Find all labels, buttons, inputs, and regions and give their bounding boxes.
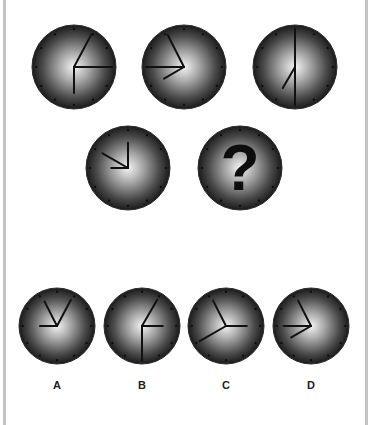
tick-mark — [164, 33, 166, 35]
sequence-clocks — [32, 25, 337, 210]
tick-mark — [165, 167, 167, 169]
tick-mark — [327, 295, 329, 297]
option-d-clock[interactable] — [273, 288, 349, 364]
tick-mark — [175, 325, 177, 327]
tick-mark — [26, 342, 28, 344]
tick-mark — [206, 148, 208, 150]
tick-mark — [124, 295, 126, 297]
tick-mark — [73, 295, 75, 297]
tick-mark — [202, 33, 204, 35]
option-label-d[interactable]: D — [301, 379, 321, 391]
clock-3 — [253, 25, 337, 109]
tick-mark — [202, 99, 204, 101]
tick-mark — [191, 325, 193, 327]
tick-mark — [277, 167, 279, 169]
tick-mark — [86, 308, 88, 310]
tick-mark — [272, 148, 274, 150]
tick-mark — [310, 359, 312, 361]
tick-mark — [94, 148, 96, 150]
tick-mark — [107, 325, 109, 327]
tick-mark — [310, 291, 312, 293]
option-label-a[interactable]: A — [47, 379, 67, 391]
tick-mark — [208, 295, 210, 297]
clock-4 — [86, 126, 170, 210]
tick-mark — [255, 308, 257, 310]
tick-mark — [201, 167, 203, 169]
tick-mark — [73, 104, 75, 106]
tick-mark — [206, 186, 208, 188]
tick-mark — [106, 85, 108, 87]
tick-mark — [73, 28, 75, 30]
tick-mark — [216, 47, 218, 49]
tick-mark — [225, 359, 227, 361]
tick-mark — [280, 308, 282, 310]
clock-unknown: ? — [198, 126, 282, 210]
option-b-clock[interactable] — [104, 288, 180, 364]
tick-mark — [239, 129, 241, 131]
tick-mark — [225, 291, 227, 293]
tick-mark — [127, 129, 129, 131]
tick-mark — [340, 342, 342, 344]
tick-mark — [86, 342, 88, 344]
tick-mark — [255, 342, 257, 344]
tick-mark — [327, 47, 329, 49]
option-c-clock[interactable] — [188, 288, 264, 364]
tick-mark — [327, 355, 329, 357]
tick-mark — [141, 291, 143, 293]
tick-mark — [183, 104, 185, 106]
tick-mark — [54, 99, 56, 101]
tick-mark — [313, 99, 315, 101]
tick-mark — [39, 355, 41, 357]
question-mark-icon: ? — [220, 132, 259, 204]
tick-mark — [92, 99, 94, 101]
tick-mark — [106, 47, 108, 49]
tick-mark — [56, 291, 58, 293]
option-a-clock[interactable] — [19, 288, 95, 364]
tick-mark — [89, 167, 91, 169]
tick-mark — [111, 308, 113, 310]
option-label-b[interactable]: B — [132, 379, 152, 391]
tick-mark — [160, 186, 162, 188]
tick-mark — [242, 355, 244, 357]
tick-mark — [56, 359, 58, 361]
tick-mark — [239, 205, 241, 207]
tick-mark — [344, 325, 346, 327]
tick-mark — [171, 342, 173, 344]
tick-mark — [183, 28, 185, 30]
tick-mark — [108, 134, 110, 136]
tick-mark — [216, 85, 218, 87]
tick-mark — [94, 186, 96, 188]
tick-mark — [261, 85, 263, 87]
option-label-c[interactable]: C — [216, 379, 236, 391]
tick-mark — [171, 308, 173, 310]
tick-mark — [150, 85, 152, 87]
tick-mark — [276, 325, 278, 327]
tick-mark — [221, 66, 223, 68]
tick-mark — [160, 148, 162, 150]
tick-mark — [108, 200, 110, 202]
tick-mark — [40, 47, 42, 49]
tick-mark — [275, 33, 277, 35]
tick-mark — [127, 205, 129, 207]
tick-mark — [39, 295, 41, 297]
tick-mark — [73, 355, 75, 357]
tick-mark — [146, 200, 148, 202]
clock-2 — [142, 25, 226, 109]
clock-puzzle-canvas: ? — [0, 0, 374, 425]
answer-options[interactable] — [19, 288, 349, 364]
tick-mark — [340, 308, 342, 310]
tick-mark — [272, 186, 274, 188]
clock-1 — [32, 25, 116, 109]
tick-mark — [256, 66, 258, 68]
tick-mark — [293, 355, 295, 357]
tick-mark — [261, 47, 263, 49]
tick-mark — [208, 355, 210, 357]
tick-mark — [124, 355, 126, 357]
tick-mark — [164, 99, 166, 101]
tick-mark — [146, 134, 148, 136]
unknown-clock: ? — [198, 126, 282, 210]
tick-mark — [280, 342, 282, 344]
tick-mark — [22, 325, 24, 327]
tick-mark — [26, 308, 28, 310]
tick-mark — [242, 295, 244, 297]
